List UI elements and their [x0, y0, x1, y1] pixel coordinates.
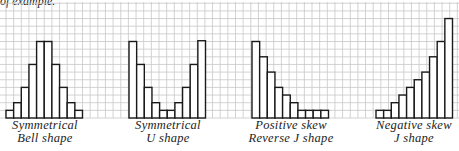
histogram-bar	[75, 110, 83, 118]
histogram-bar	[290, 103, 298, 118]
histogram-bar	[437, 42, 445, 119]
histogram-bar	[129, 42, 137, 119]
histogram-bar	[399, 95, 407, 118]
label-subtitle: J shape	[359, 132, 459, 145]
histogram-bar	[407, 87, 415, 118]
histogram-bar	[183, 87, 191, 118]
histogram-bar	[37, 42, 45, 119]
histogram-bar	[6, 110, 14, 118]
histogram-bar	[391, 103, 399, 118]
histogram-bar	[430, 57, 438, 118]
chart-label-bell: Symmetrical Bell shape	[0, 119, 100, 145]
histogram-bar	[167, 110, 175, 118]
histogram-bar	[384, 110, 392, 118]
histogram-bar	[21, 87, 29, 118]
histogram-bar	[137, 64, 145, 118]
histogram-bar	[313, 110, 321, 118]
histogram-bar	[160, 110, 168, 118]
histogram-grid-figure	[0, 0, 459, 121]
histogram-bar	[198, 41, 206, 118]
histogram-bar	[252, 42, 260, 119]
histogram-bar	[321, 110, 329, 118]
label-subtitle: U shape	[113, 132, 223, 145]
histogram-bar	[175, 103, 183, 118]
histogram-bar	[298, 110, 306, 118]
grid-lines	[0, 2, 459, 118]
histogram-bar	[14, 103, 22, 118]
histogram-bar	[190, 64, 198, 118]
histogram-bar	[376, 110, 384, 118]
chart-label-negative-skew: Negative skew J shape	[359, 119, 459, 145]
label-subtitle: Reverse J shape	[236, 132, 346, 145]
label-subtitle: Bell shape	[0, 132, 100, 145]
histogram-bar	[283, 95, 291, 118]
chart-label-positive-skew: Positive skew Reverse J shape	[236, 119, 346, 145]
histogram-bar	[414, 80, 422, 118]
histogram-bar	[52, 64, 60, 118]
chart-label-u: Symmetrical U shape	[113, 119, 223, 145]
histogram-bar	[422, 72, 430, 118]
histogram-bar	[44, 42, 52, 119]
histogram-bar	[67, 103, 75, 118]
histogram-bar	[306, 110, 314, 118]
histogram-bar	[275, 87, 283, 118]
histogram-bar	[260, 57, 268, 118]
histogram-bar	[60, 87, 68, 118]
histogram-bar	[29, 64, 37, 118]
histogram-bar	[152, 103, 160, 118]
histogram-bar	[445, 19, 453, 118]
histogram-bar	[144, 87, 152, 118]
histogram-bar	[267, 72, 275, 118]
